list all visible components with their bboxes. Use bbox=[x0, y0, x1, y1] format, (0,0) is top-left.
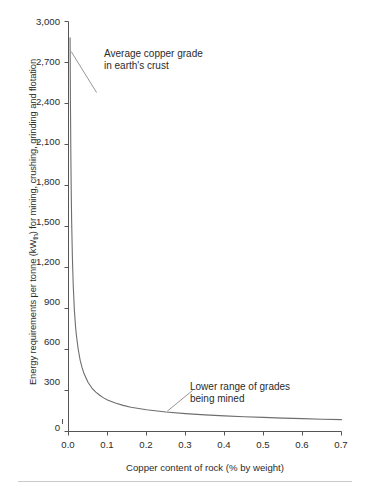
annotation-crust-line2: in earth's crust bbox=[104, 60, 169, 71]
annotation-crust-line1: Average copper grade bbox=[104, 48, 203, 59]
data-series-line bbox=[70, 38, 341, 420]
plot-area bbox=[0, 0, 370, 489]
x-tick-marks bbox=[69, 432, 342, 436]
bottom-divider bbox=[18, 481, 352, 482]
annotation-average-copper-grade: Average copper grade in earth's crust bbox=[104, 48, 203, 71]
annotation-lower-range-of-grades: Lower range of grades being mined bbox=[190, 381, 290, 404]
x-axis-label: Copper content of rock (% by weight) bbox=[40, 462, 370, 473]
y-tick-marks bbox=[65, 22, 69, 432]
leader-line-crust bbox=[71, 52, 96, 93]
annotation-grades-line2: being mined bbox=[190, 393, 244, 404]
leader-line-grades bbox=[167, 391, 192, 412]
chart-figure: Energy requirements per tonne (kWth) for… bbox=[0, 0, 370, 489]
annotation-grades-line1: Lower range of grades bbox=[190, 381, 290, 392]
